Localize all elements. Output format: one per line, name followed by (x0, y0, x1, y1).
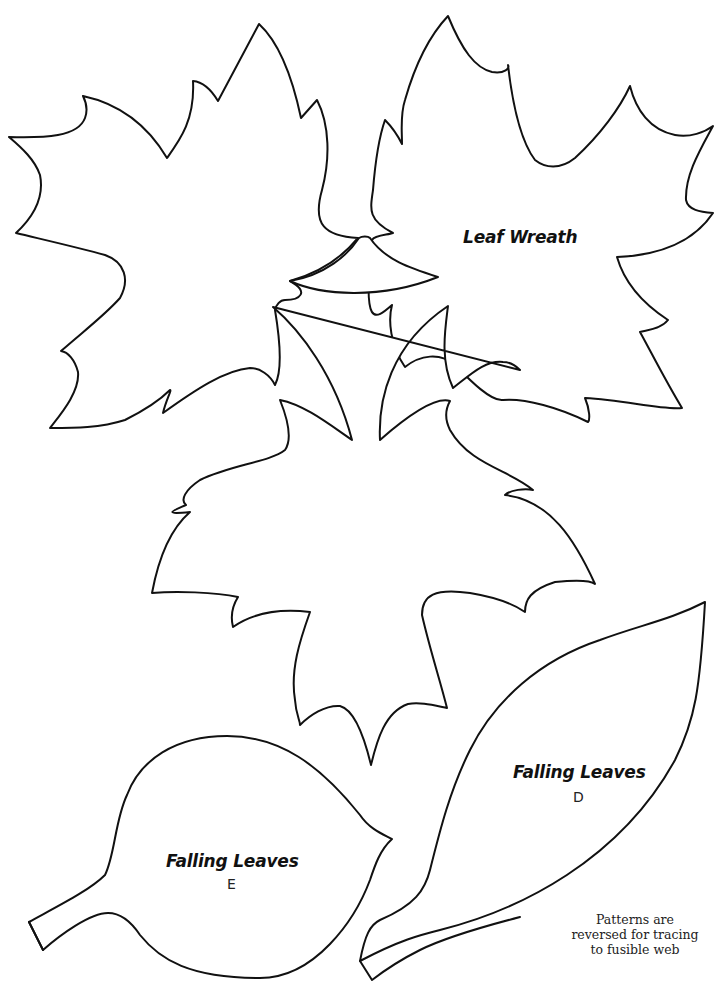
tracing-note: Patterns are reversed for tracing to fus… (565, 912, 705, 957)
tracing-note-line-2: reversed for tracing (565, 927, 705, 942)
pattern-sheet (0, 0, 723, 986)
falling-leaves-d-label: Falling Leaves (513, 762, 646, 782)
tracing-note-line-3: to fusible web (565, 942, 705, 957)
tracing-note-line-1: Patterns are (565, 912, 705, 927)
falling-leaves-e-label: Falling Leaves (166, 851, 299, 871)
pattern-letter-d: D (573, 789, 584, 805)
leaf-wreath-label: Leaf Wreath (463, 227, 577, 247)
maple-leaf-top-right (369, 16, 713, 422)
pattern-letter-e: E (227, 876, 236, 892)
maple-leaf-top-left (9, 24, 358, 428)
